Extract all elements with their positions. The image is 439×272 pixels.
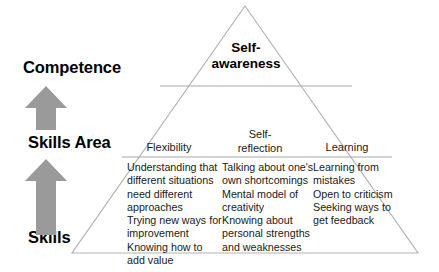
axis-label-skills-area: Skills Area xyxy=(28,133,111,152)
column-header-flexibility: Flexibility xyxy=(124,141,214,155)
up-arrow-icon-lower xyxy=(23,157,69,235)
diagram-canvas: Competence Skills Area Skills Self- awar… xyxy=(0,0,439,272)
column-header-learning: Learning xyxy=(307,141,387,155)
column-header-self-reflection: Self- reflection xyxy=(215,128,305,155)
axis-label-competence: Competence xyxy=(23,58,121,77)
pyramid-apex-title: Self- awareness xyxy=(196,40,296,72)
column-body-learning: Learning from mistakes Open to criticism… xyxy=(313,161,393,227)
up-arrow-icon-upper xyxy=(23,84,69,130)
column-body-self-reflection: Talking about one's own shortcomings Men… xyxy=(222,161,320,254)
column-body-flexibility: Understanding that different situations … xyxy=(127,161,223,267)
